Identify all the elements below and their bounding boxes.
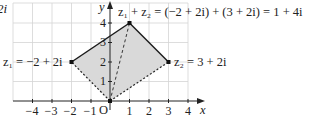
x-tick-1: 1 (127, 105, 133, 117)
sum-label: z₁ + z₂ = (−2 + 2i) + (3 + 2i) = 1 + 4i (118, 6, 303, 19)
x-axis-label: x (200, 104, 206, 117)
point-z2 (167, 60, 171, 64)
x-tick-neg3: −3 (45, 105, 58, 117)
x-tick-neg4: −4 (26, 105, 39, 117)
point-sum (128, 21, 132, 25)
partial-left-label: 2i (0, 2, 7, 15)
y-tick-3: 3 (100, 36, 106, 48)
y-axis-arrow-icon (107, 1, 113, 9)
z1-label: z₁ = −2 + 2i (3, 56, 63, 69)
x-tick-4: 4 (185, 105, 191, 117)
x-tick-neg1: −1 (84, 105, 97, 117)
complex-addition-diagram: 2i y x O −4 −3 −2 −1 1 2 3 4 1 2 3 4 z₁ … (0, 0, 311, 119)
y-axis-label: y (99, 1, 105, 14)
x-tick-neg2: −2 (64, 105, 77, 117)
y-tick-1: 1 (100, 75, 106, 87)
x-tick-2: 2 (146, 105, 152, 117)
x-tick-3: 3 (166, 105, 172, 117)
y-tick-2: 2 (100, 56, 106, 68)
point-z1 (70, 60, 74, 64)
origin-label: O (99, 104, 108, 117)
point-origin (108, 99, 112, 103)
y-tick-4: 4 (100, 17, 106, 29)
z2-label: z₂ = 3 + 2i (174, 56, 226, 69)
